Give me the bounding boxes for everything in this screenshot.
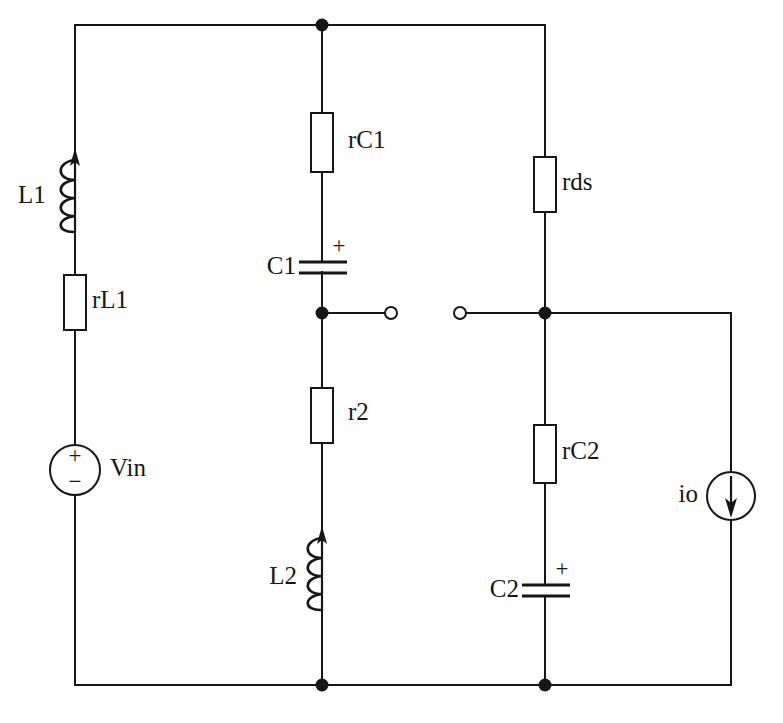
capacitor-C1-plus: + [333,233,346,258]
current-source-io-label: io [679,480,698,507]
capacitor-C2-label: C2 [490,575,519,602]
resistor-rL1-label: rL1 [92,286,128,313]
resistor-rds[interactable]: rds [534,157,593,212]
node-top-junction [316,19,329,32]
voltage-source-Vin[interactable]: + − Vin [50,443,146,495]
inductor-L1-label: L1 [18,181,46,208]
resistor-r2-body [311,388,333,443]
resistor-r2-label: r2 [348,398,369,425]
wire-network [75,25,731,685]
resistor-rL1[interactable]: rL1 [64,275,128,330]
inductor-L1-coil [61,160,75,232]
resistor-rC1[interactable]: rC1 [311,113,386,172]
circuit-schematic: L1 rL1 + − Vin rC1 + C1 r2 L2 rds [0,0,783,723]
node-bottom-left [316,679,329,692]
resistor-rds-body [534,157,556,212]
node-mid-right [539,307,552,320]
voltage-source-Vin-label: Vin [110,454,146,481]
terminal-left-open-icon[interactable] [385,307,397,319]
capacitor-C1[interactable]: + C1 [267,233,347,278]
terminal-right-open-icon[interactable] [454,307,466,319]
resistor-rC1-label: rC1 [348,126,386,153]
resistor-r2[interactable]: r2 [311,388,369,443]
resistor-rC1-body [311,113,333,172]
capacitor-C2-plus: + [556,556,569,581]
circuit-diagram-canvas: L1 rL1 + − Vin rC1 + C1 r2 L2 rds [0,0,783,723]
resistor-rL1-body [64,275,86,330]
open-terminals [385,307,466,319]
resistor-rds-label: rds [562,168,593,195]
capacitor-C2[interactable]: + C2 [490,556,570,601]
current-source-io[interactable]: io [679,472,755,520]
node-mid-left [316,307,329,320]
resistor-rC2-label: rC2 [562,437,600,464]
voltage-source-Vin-plus: + [69,443,82,468]
capacitor-C1-label: C1 [267,252,296,279]
inductor-L1[interactable]: L1 [18,148,80,232]
inductor-L2-label: L2 [269,562,297,589]
inductor-L2[interactable]: L2 [269,526,327,610]
voltage-source-Vin-minus: − [69,469,82,494]
resistor-rC2-body [534,425,556,483]
inductor-L2-coil [308,538,322,610]
resistor-rC2[interactable]: rC2 [534,425,600,483]
node-bottom-right [539,679,552,692]
